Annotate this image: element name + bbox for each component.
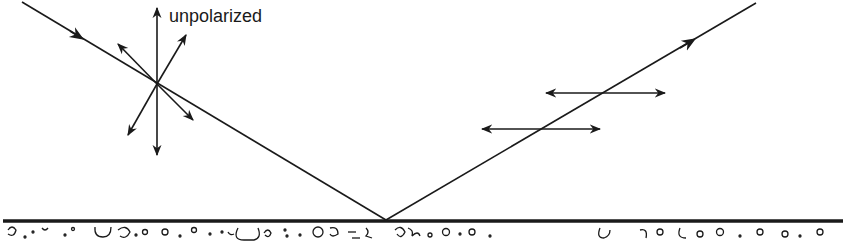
surface-texture	[8, 227, 823, 240]
reflected-ray	[386, 3, 756, 220]
unpolarized-label: unpolarized	[169, 6, 262, 26]
incident-ray	[22, 2, 386, 220]
direction-arrow-icon	[680, 42, 690, 48]
unpolarized-vectors	[118, 8, 193, 155]
arrow-down-left-icon	[128, 84, 157, 135]
arrow-up-left-icon	[118, 44, 157, 84]
reflection-polarization-diagram: unpolarized	[0, 0, 847, 250]
polarized-vectors	[482, 93, 665, 129]
reflecting-surface	[3, 221, 843, 240]
arrow-up-right-icon	[157, 35, 186, 84]
direction-arrow-icon	[70, 31, 78, 36]
